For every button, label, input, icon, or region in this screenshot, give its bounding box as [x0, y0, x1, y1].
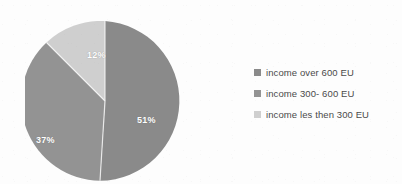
- legend-item-income-300-600[interactable]: income 300- 600 EU: [254, 83, 400, 104]
- legend-item-label: income 300- 600 EU: [266, 88, 354, 99]
- pie-data-label-income-300-600: 37%: [36, 135, 55, 145]
- pie-slice-income-over-600[interactable]: [100, 21, 179, 181]
- legend-item-label: income over 600 EU: [266, 67, 354, 78]
- legend-square-marker-icon: [254, 90, 261, 97]
- pie-chart-plot-area: 51% 37% 12%: [25, 21, 185, 181]
- legend-square-marker-icon: [254, 111, 261, 118]
- pie-svg: [25, 21, 185, 181]
- legend-item-income-over-600[interactable]: income over 600 EU: [254, 62, 400, 83]
- pie-chart-figure: 51% 37% 12% income over 600 EU income 30…: [0, 0, 402, 184]
- legend-item-label: income les then 300 EU: [266, 109, 369, 120]
- chart-legend: income over 600 EU income 300- 600 EU in…: [254, 62, 400, 125]
- pie-data-label-income-less-than-300: 12%: [87, 50, 106, 60]
- legend-item-income-less-than-300[interactable]: income les then 300 EU: [254, 104, 400, 125]
- legend-square-marker-icon: [254, 69, 261, 76]
- pie-data-label-income-over-600: 51%: [137, 115, 156, 125]
